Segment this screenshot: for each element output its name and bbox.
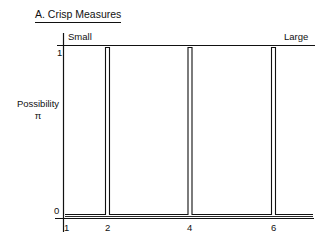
xtick-1: 1 [64, 223, 69, 233]
xtick-2: 2 [105, 223, 110, 233]
y-axis-label-text: Possibility [14, 98, 62, 110]
ytick-0: 0 [54, 206, 59, 216]
label-small: Small [68, 32, 92, 42]
y-axis-label-symbol: π [14, 110, 62, 122]
chart-plot [0, 0, 330, 248]
label-large: Large [284, 32, 308, 42]
y-axis-label: Possibility π [14, 98, 62, 122]
possibility-curve-outer [65, 48, 313, 215]
xtick-4: 4 [187, 223, 192, 233]
ytick-1: 1 [57, 48, 62, 58]
xtick-6: 6 [271, 223, 276, 233]
